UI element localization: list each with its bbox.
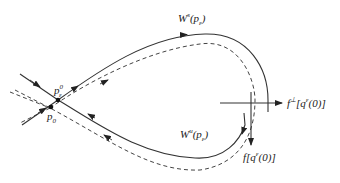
stable-manifold-label: Ws(pε) <box>178 12 206 27</box>
homoclinic-diagram <box>0 0 340 183</box>
arrow-icon <box>72 86 78 90</box>
arrow-icon <box>104 135 112 140</box>
unperturbed-stable-local <box>15 90 50 108</box>
stable-manifold-curve <box>58 34 268 112</box>
perp-vector-label: f⊥[qε(0)] <box>287 97 326 109</box>
fixed-point-label: p0 <box>47 111 56 125</box>
fixed-point-dot <box>49 105 54 110</box>
arrow-icon <box>100 80 108 84</box>
perturbed-point-label: p0ε <box>54 84 62 99</box>
unstable-manifold-curve <box>58 100 245 158</box>
arrow-icon <box>180 35 187 36</box>
unstable-manifold-label: Wu(pε) <box>180 128 208 143</box>
tangent-vector-label: f[qε(0)] <box>243 151 276 163</box>
incoming-stable-line <box>20 74 58 100</box>
arrow-icon <box>30 80 40 87</box>
arrow-icon <box>88 114 95 118</box>
